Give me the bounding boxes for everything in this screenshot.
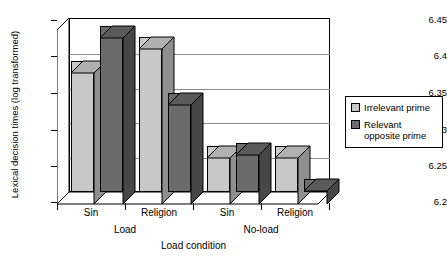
bar-noload-sin-relevant-opposite — [236, 143, 259, 192]
bar-side-face — [191, 93, 203, 192]
bar-front — [71, 61, 94, 192]
bar-noload-religion-relevant-opposite — [304, 179, 327, 192]
bar-front — [168, 93, 191, 192]
y-tick-label-6.25: 6.25 — [413, 161, 447, 171]
x-tick-label-load-sin: Sin — [57, 207, 125, 218]
bar-noload-religion-irrelevant — [275, 146, 298, 192]
y-tick-label-6.4: 6.4 — [413, 51, 447, 61]
bar-noload-sin-irrelevant — [207, 146, 230, 192]
x-group-label-no-load: No-load — [193, 224, 329, 235]
legend-swatch-relevant-opposite-prime — [351, 120, 360, 129]
bar-side-face — [259, 143, 271, 192]
x-axis-title: Load condition — [57, 240, 330, 251]
y-tick-label-6.2: 6.2 — [413, 197, 447, 207]
y-axis-title: Lexical decision times (log transformed) — [9, 15, 20, 215]
plot-area — [57, 18, 330, 203]
legend-label-irrelevant-prime: Irrelevant prime — [364, 102, 430, 113]
bar-chart: Lexical decision times (log transformed)… — [0, 0, 447, 262]
legend-label-relevant-opposite-prime: Relevant opposite prime — [364, 119, 438, 141]
legend-item-relevant-opposite-prime: Relevant opposite prime — [351, 119, 438, 141]
x-group-label-load: Load — [57, 224, 193, 235]
x-tick-mark — [329, 203, 330, 210]
x-tick-label-noload-sin: Sin — [193, 207, 261, 218]
bar-load-religion-irrelevant — [139, 37, 162, 192]
bar-series-group — [57, 18, 330, 204]
x-tick-label-load-religion: Religion — [125, 207, 193, 218]
x-tick-label-noload-religion: Religion — [261, 207, 329, 218]
bar-front — [100, 26, 123, 192]
bar-load-sin-relevant-opposite — [100, 26, 123, 192]
chart-legend: Irrelevant prime Relevant opposite prime — [345, 96, 443, 148]
bar-load-religion-relevant-opposite — [168, 93, 191, 192]
bar-side-face — [123, 26, 135, 192]
legend-swatch-irrelevant-prime — [351, 103, 360, 112]
bar-load-sin-irrelevant — [71, 61, 94, 192]
bar-side-face — [327, 179, 339, 192]
bar-front — [139, 37, 162, 192]
legend-item-irrelevant-prime: Irrelevant prime — [351, 102, 438, 113]
y-tick-label-6.45: 6.45 — [413, 15, 447, 25]
